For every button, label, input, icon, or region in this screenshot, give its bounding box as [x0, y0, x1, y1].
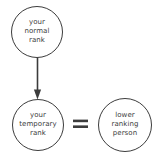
- equals-bar-top: [73, 120, 88, 123]
- node-circle-lower-ranking-person: [99, 99, 152, 152]
- node-circle-normal-rank: [12, 7, 63, 58]
- diagram-vector-layer: [0, 0, 162, 154]
- arrow-head-normal-to-temporary: [34, 90, 41, 100]
- equals-bar-bottom: [73, 125, 88, 128]
- node-circle-temporary-rank: [13, 100, 64, 151]
- diagram-canvas: your normal rank your temporary rank low…: [0, 0, 162, 154]
